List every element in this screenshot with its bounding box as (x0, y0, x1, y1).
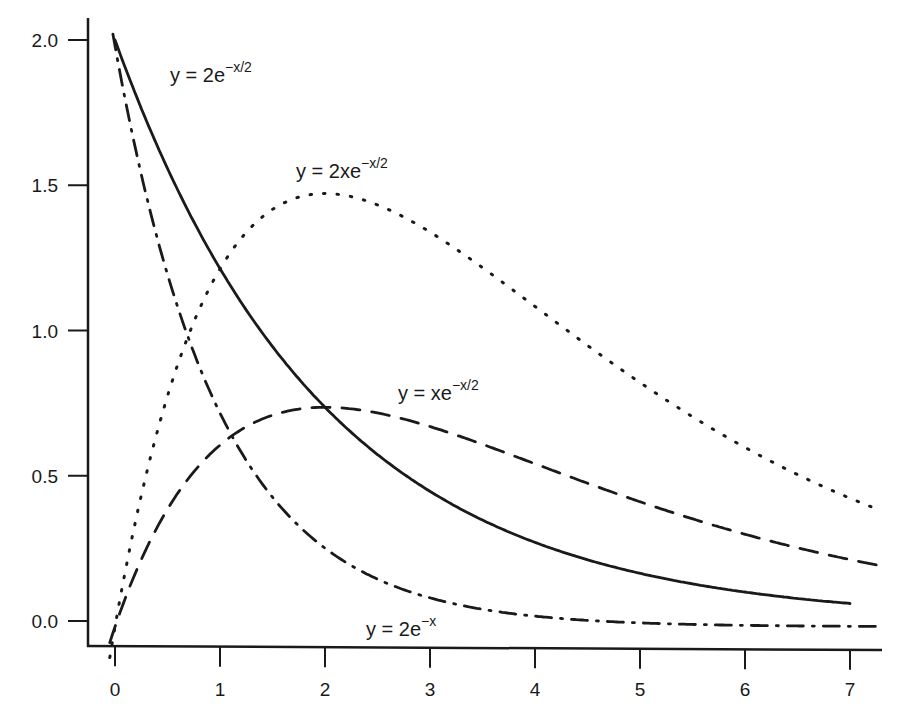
x-tick-label: 5 (635, 679, 646, 700)
curve-dash-dot (113, 34, 882, 626)
label-2xe-neg-half-x: y = 2xe−x/2 (296, 155, 388, 182)
x-axis-line (87, 646, 882, 650)
curve-solid (115, 40, 850, 604)
y-tick-label: 1.0 (32, 321, 58, 342)
curves (110, 34, 882, 657)
x-tick-label: 2 (320, 679, 331, 700)
y-tick-label: 0.0 (32, 611, 58, 632)
y-tick-label: 1.5 (32, 175, 58, 196)
x-tick-label: 0 (110, 679, 121, 700)
label-2e-neg-half-x: y = 2e−x/2 (170, 59, 252, 86)
label-2e-neg-x: y = 2e−x (366, 613, 436, 640)
x-tick-label: 7 (845, 679, 856, 700)
x-axis-ticks: 01234567 (110, 646, 856, 700)
y-tick-label: 2.0 (32, 30, 58, 51)
label-xe-neg-half-x: y = xe−x/2 (398, 377, 479, 404)
function-chart: 0.00.51.01.52.0 01234567 y = 2e−x/2 y = … (0, 0, 900, 722)
y-tick-label: 0.5 (32, 466, 58, 487)
x-tick-label: 4 (530, 679, 541, 700)
x-tick-label: 1 (215, 679, 226, 700)
x-tick-label: 3 (425, 679, 436, 700)
x-tick-label: 6 (740, 679, 751, 700)
y-axis-ticks: 0.00.51.01.52.0 (32, 30, 88, 632)
